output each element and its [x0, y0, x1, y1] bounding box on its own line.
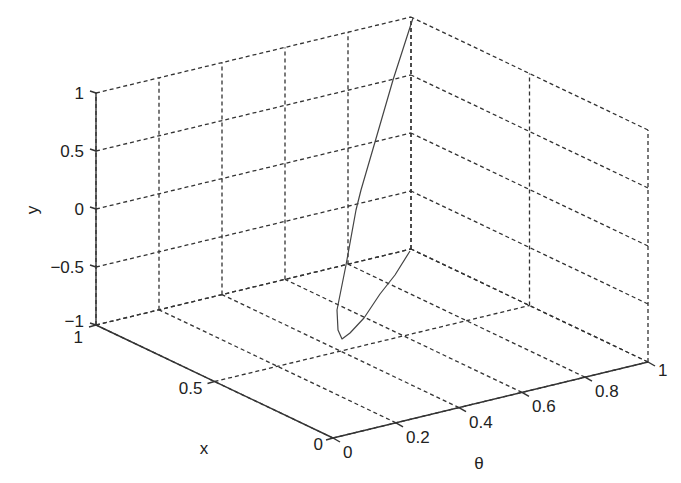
theta-tick [459, 408, 466, 412]
wall-x1-grid-y [96, 17, 411, 93]
theta-tick [585, 377, 592, 381]
y-tick [90, 207, 96, 209]
x-tick [326, 438, 333, 440]
y-tick [90, 149, 96, 151]
theta-axis-label: θ [474, 454, 483, 473]
wall-x1-grid-y [96, 249, 411, 325]
wall-x1-grid-y [96, 75, 411, 151]
tick-labels: −1−0.500.5100.5100.20.40.60.81 [50, 84, 667, 462]
x-tick [208, 382, 215, 384]
theta-tick [396, 423, 403, 427]
floor-grid-theta [285, 279, 522, 392]
theta-tick-label: 0.4 [469, 413, 493, 432]
theta-tick-label: 0 [343, 443, 352, 462]
theta-tick-label: 0.2 [406, 428, 430, 447]
y-tick-label: 1 [75, 84, 84, 103]
y-tick-label: 0.5 [60, 142, 84, 161]
x-tick-label: 0 [314, 435, 323, 454]
x-tick [89, 325, 96, 327]
theta-tick-label: 0.6 [532, 397, 556, 416]
theta-tick [522, 392, 529, 396]
theta-tick-label: 1 [658, 361, 667, 380]
theta-tick [333, 438, 340, 442]
y-tick-label: −0.5 [50, 258, 84, 277]
y-tick-label: 0 [75, 200, 84, 219]
3d-line-plot: −1−0.500.5100.5100.20.40.60.81 y x θ [0, 0, 681, 483]
y-axis-label: y [23, 205, 42, 214]
wall-x1-grid-y [96, 191, 411, 267]
wall-x1-grid-y [96, 133, 411, 209]
grid-lines [96, 17, 648, 438]
floor-grid-x [215, 306, 530, 382]
x-axis-label: x [200, 439, 209, 458]
x-tick-label: 0.5 [179, 379, 203, 398]
theta-tick-label: 0.8 [595, 382, 619, 401]
theta-tick [648, 362, 655, 366]
y-tick [90, 91, 96, 93]
y-tick [90, 265, 96, 267]
x-tick-label: 1 [74, 328, 83, 347]
